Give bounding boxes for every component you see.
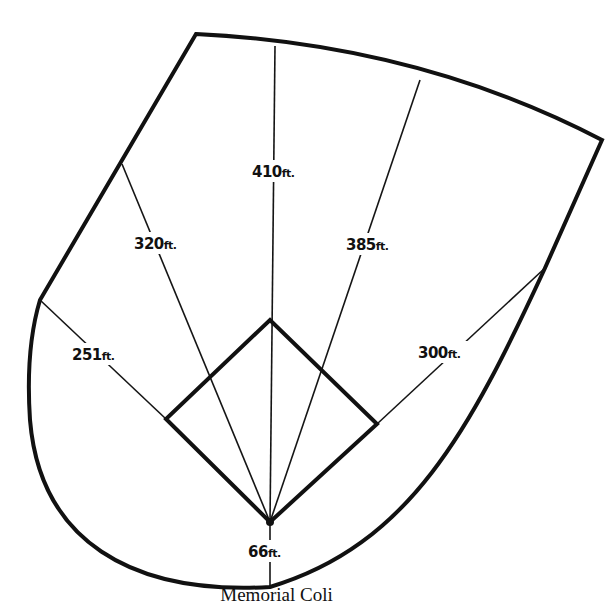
caption-text: Memorial Coli	[220, 584, 332, 605]
ray-center	[270, 46, 275, 522]
field-outline	[29, 34, 602, 588]
figure-caption: Memorial Coli	[0, 584, 609, 605]
home-plate-marker	[266, 518, 274, 526]
distance-rays	[40, 46, 545, 587]
